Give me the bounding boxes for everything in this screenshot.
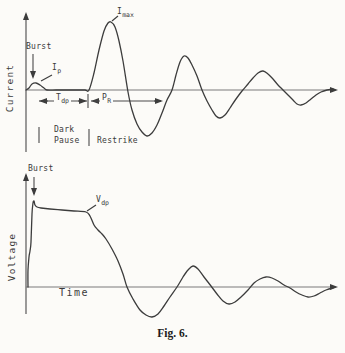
vdp-leader [87, 205, 96, 211]
figure-6-dual-waveform-plot: Current Burst Ip Imax Tdp PR Dark Pause … [0, 0, 345, 353]
ip-leader [41, 75, 52, 81]
current-waveform-curve [26, 22, 333, 136]
voltage-waveform-curve [28, 201, 333, 317]
figure-canvas [0, 0, 345, 353]
imax-leader [112, 16, 118, 21]
